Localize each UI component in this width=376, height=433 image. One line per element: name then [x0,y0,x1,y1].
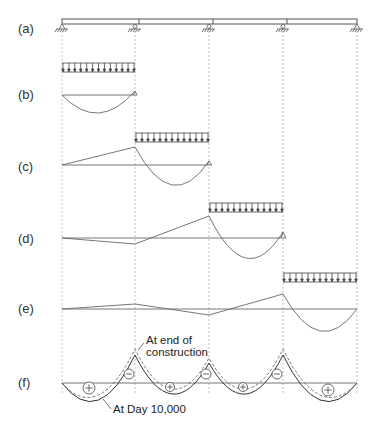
beam-a [62,19,357,24]
sign-markers [83,369,334,396]
annotation-day-10000: At Day 10,000 [113,403,186,415]
continuous-beam-moment-diagram [0,0,376,433]
annotation-end-line2: construction [146,346,208,358]
distributed-loads [62,63,358,282]
annotation-end-line1: At end of [146,334,208,346]
annotation-end-of-construction: At end of construction [146,334,208,358]
